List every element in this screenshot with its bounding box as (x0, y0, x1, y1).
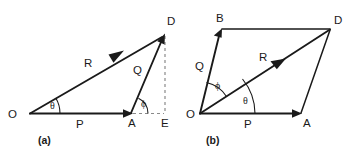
diagram-canvas: O A D E P Q R θ ϕ (a) (0, 0, 356, 151)
point-label-e-a: E (161, 117, 169, 129)
point-label-d-a: D (167, 15, 175, 27)
vector-label-q-a: Q (133, 64, 142, 76)
vector-label-r-a: R (84, 57, 92, 69)
vector-label-q-b: Q (195, 60, 204, 72)
point-label-a-a: A (128, 117, 136, 129)
panel-a-caption: (a) (38, 134, 51, 146)
vector-q-arrowhead-b (214, 29, 222, 38)
angle-label-phi-a: ϕ (141, 98, 146, 109)
point-label-d-b: D (334, 14, 342, 26)
point-label-o-b: O (186, 108, 195, 120)
vector-diagram-figure: O A D E P Q R θ ϕ (a) (0, 0, 356, 151)
side-line-ad-b (301, 30, 330, 113)
angle-label-theta-b: θ (243, 95, 248, 106)
point-label-a-b: A (303, 117, 311, 129)
vector-r-arrowhead-b (271, 59, 287, 70)
panel-b-caption: (b) (206, 134, 219, 146)
vector-label-p-a: P (76, 118, 84, 130)
point-label-b-b: B (216, 12, 224, 24)
vector-p-arrowhead-b (292, 109, 302, 118)
panel-a-group: O A D E P Q R θ ϕ (a) (8, 15, 175, 146)
vector-label-r-b: R (259, 51, 267, 63)
vector-q-line-b (200, 36, 219, 114)
angle-label-phi-b: ϕ (215, 80, 220, 91)
vector-label-p-b: P (244, 118, 252, 130)
vector-r-line-b (200, 30, 330, 114)
panel-b-group: O A B D P Q R ϕ θ (b) (186, 12, 342, 146)
angle-label-theta-a: θ (50, 100, 55, 111)
angle-theta-arc-a (56, 98, 60, 114)
point-label-o-a: O (8, 108, 17, 120)
